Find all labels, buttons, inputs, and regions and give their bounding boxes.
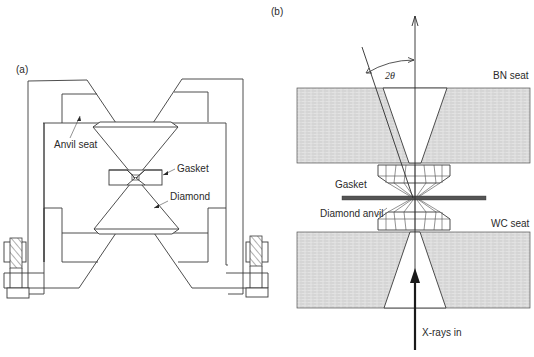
diamond-label: Diamond: [170, 191, 210, 202]
diamond-anvil-label: Diamond anvil: [320, 208, 383, 219]
panel-a-label: (a): [16, 64, 28, 75]
right-bolt-shaft: [250, 266, 262, 288]
anvil-seat-arrowhead: [77, 116, 81, 121]
gasket-a-label: Gasket: [177, 163, 209, 174]
wc-seat-label: WC seat: [491, 218, 530, 229]
left-bolt-shaft: [10, 268, 22, 288]
right-upper-anvil-seat: [174, 92, 208, 122]
lower-diamond: [94, 178, 179, 234]
gasket-b: [342, 196, 486, 200]
lower-anvil-seat: [62, 233, 208, 262]
diamond-anvil-cell-figure: (a): [0, 0, 534, 357]
xrays-in-label: X-rays in: [422, 327, 461, 338]
upper-diamond-anvil: [378, 165, 450, 198]
anvil-seat-label: Anvil seat: [54, 139, 98, 150]
right-bolt-head: [246, 288, 268, 297]
panel-a: (a): [4, 64, 268, 298]
left-bolt-thread: [10, 238, 22, 268]
panel-b: (b) 2θ: [271, 6, 530, 350]
bn-seat-label: BN seat: [493, 70, 529, 81]
right-bolt-thread: [250, 236, 262, 266]
lower-diamond-anvil: [378, 198, 450, 230]
panel-b-label: (b): [271, 6, 283, 17]
left-bolt-head: [7, 288, 29, 298]
gasket-b-label: Gasket: [335, 179, 367, 190]
two-theta-label: 2θ: [385, 70, 395, 81]
